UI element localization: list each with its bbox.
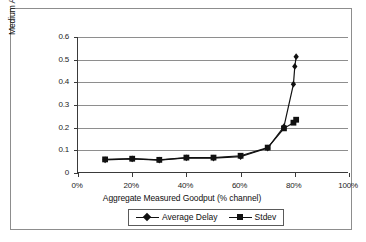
data-point-square [238,153,244,159]
diamond-icon [143,213,151,221]
y-tick-label: 0.1 [35,146,69,154]
data-point-square [211,155,217,161]
x-tick-label: 0% [57,182,97,190]
y-tick-label: 0.2 [35,124,69,132]
chart-legend: Average DelayStdev [128,209,284,226]
data-point-square [184,155,190,161]
x-axis-tick [186,173,187,177]
y-tick-label: 0.3 [35,101,69,109]
data-point-square [129,156,135,162]
legend-marker-diamond-icon [136,213,159,222]
legend-item-stdev[interactable]: Stdev [229,212,277,222]
data-point-square [293,117,299,123]
data-point-square [281,125,287,131]
data-point-square [102,157,108,163]
y-axis-title: Medium Access Delay (s) [7,0,17,35]
chart-figure: Medium Access Delay (s) 00.10.20.30.40.5… [0,0,366,242]
x-axis-tick [132,173,133,177]
x-axis-tick [78,173,79,177]
data-point-square [156,157,162,163]
y-tick-label: 0 [35,169,69,177]
x-axis-tick [295,173,296,177]
legend-marker-square-icon [229,213,252,222]
data-point-diamond [294,53,299,60]
y-tick-label: 0.6 [35,33,69,41]
legend-label: Stdev [255,212,277,222]
y-tick-label: 0.5 [35,56,69,64]
square-icon [237,214,243,220]
x-axis-title: Aggregate Measured Goodput (% channel) [11,193,353,203]
x-tick-label: 40% [165,182,205,190]
data-point-square [265,145,271,151]
data-point-diamond [291,81,296,88]
legend-item-average-delay[interactable]: Average Delay [136,212,218,222]
series-line-average-delay [105,57,296,160]
x-tick-label: 80% [274,182,314,190]
plot-area [77,37,348,173]
y-tick-label: 0.4 [35,78,69,86]
x-axis-tick [241,173,242,177]
x-tick-label: 100% [328,182,366,190]
x-axis-tick [349,173,350,177]
x-tick-label: 20% [111,182,151,190]
series-layer [78,37,349,173]
series-line-stdev [105,120,296,160]
chart-frame: Medium Access Delay (s) 00.10.20.30.40.5… [10,8,352,230]
data-point-diamond [292,63,297,70]
legend-label: Average Delay [162,212,218,222]
x-tick-label: 60% [220,182,260,190]
